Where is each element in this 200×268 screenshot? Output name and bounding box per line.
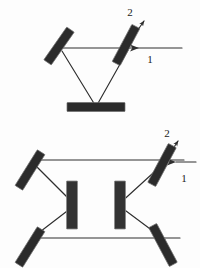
lower-output-port-label: 2 (164, 127, 170, 139)
lower-left-intracavity-element (67, 181, 78, 229)
lower-right-intracavity-element (115, 181, 126, 229)
lower-input-port-label: 1 (181, 172, 187, 184)
upper-output-port-label: 2 (127, 6, 133, 18)
upper-bottom-end-mirror (67, 103, 125, 112)
upper-input-port-label: 1 (147, 53, 153, 65)
optical-diagram-canvas: 2 1 (0, 0, 200, 268)
figure-background (0, 0, 200, 268)
optical-diagram-figure: 2 1 (0, 0, 200, 268)
